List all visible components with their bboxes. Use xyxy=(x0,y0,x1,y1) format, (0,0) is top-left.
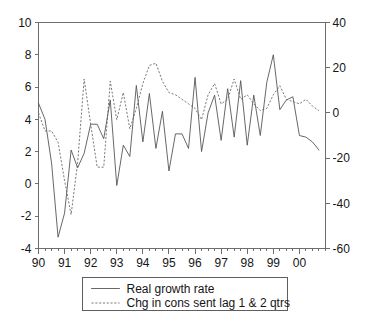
legend-label: Chg in cons sent lag 1 & 2 qtrs xyxy=(127,296,290,310)
x-axis-tick-label: 92 xyxy=(84,256,98,270)
y-axis-left-tick-label: -2 xyxy=(21,209,32,223)
x-axis-tick-label: 97 xyxy=(214,256,228,270)
y-axis-left-tick-label: 10 xyxy=(18,16,32,30)
y-axis-right-tick-label: -40 xyxy=(333,197,351,211)
x-axis-tick-label: 91 xyxy=(58,256,72,270)
plot-frame xyxy=(39,23,326,249)
x-axis-tick-label: 99 xyxy=(267,256,281,270)
legend: Real growth rateChg in cons sent lag 1 &… xyxy=(83,278,290,311)
data-series-layer xyxy=(39,55,319,237)
x-axis-tick-label: 96 xyxy=(188,256,202,270)
y-axis-right-tick-label: 20 xyxy=(333,61,347,75)
x-axis-tick-label: 94 xyxy=(136,256,150,270)
x-axis-tick-label: 90 xyxy=(32,256,46,270)
y-axis-left-tick-label: 2 xyxy=(25,145,32,159)
x-axis: 9091929394959697989900 xyxy=(32,249,326,270)
x-axis-tick-label: 00 xyxy=(293,256,307,270)
y-axis-left-tick-label: 6 xyxy=(25,80,32,94)
y-axis-right-tick-label: -20 xyxy=(333,151,351,165)
x-axis-tick-label: 98 xyxy=(241,256,255,270)
y-axis-left-tick-label: 8 xyxy=(25,48,32,62)
y-axis-left: 1086420-2-4 xyxy=(18,16,38,256)
y-axis-right: 40200-20-40-60 xyxy=(326,16,351,256)
y-axis-left-tick-label: 4 xyxy=(25,113,32,127)
y-axis-right-tick-label: 0 xyxy=(333,106,340,120)
y-axis-right-tick-label: 40 xyxy=(333,16,347,30)
x-axis-tick-label: 95 xyxy=(162,256,176,270)
series-line-solid xyxy=(39,55,319,237)
line-chart: 1086420-2-4 40200-20-40-60 9091929394959… xyxy=(0,0,374,326)
y-axis-right-tick-label: -60 xyxy=(333,242,351,256)
y-axis-left-tick-label: 0 xyxy=(25,177,32,191)
x-axis-tick-label: 93 xyxy=(110,256,124,270)
legend-label: Real growth rate xyxy=(127,282,215,296)
y-axis-left-tick-label: -4 xyxy=(21,242,32,256)
chart-figure: 1086420-2-4 40200-20-40-60 9091929394959… xyxy=(0,0,374,326)
